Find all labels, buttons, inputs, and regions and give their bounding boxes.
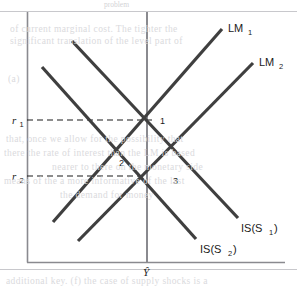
y-tick-label-r2: r	[12, 170, 17, 182]
is-s1-label: IS(S	[241, 222, 262, 234]
equilibrium-point-3-label: 3	[173, 176, 178, 186]
y-tick-label-r1: r	[12, 114, 17, 126]
equilibrium-point-1-label: 1	[160, 116, 165, 126]
is-s2-label-sub: 2	[228, 249, 232, 258]
lm1-label: LM	[228, 22, 243, 34]
x-axis-label: Ŷ	[143, 266, 151, 278]
is-lm-diagram: r 1 r 2 Ŷ LM 1 LM 2 IS(S 1 ) IS(S 2 ) 1 …	[0, 0, 297, 292]
lm1-curve	[53, 29, 222, 222]
is-s2-label-suffix: )	[233, 243, 237, 255]
lm1-label-sub: 1	[248, 28, 252, 37]
lm2-label: LM	[259, 56, 274, 68]
lm2-label-sub: 2	[279, 62, 283, 71]
is-s1-label-suffix: )	[274, 222, 278, 234]
figure-container: problem of current marginal cost. The ti…	[0, 0, 297, 292]
is-s1-label-sub: 1	[269, 228, 273, 237]
y-tick-sub-r2: 2	[20, 176, 24, 185]
lm2-curve	[78, 63, 253, 241]
equilibrium-point-2-label: 2	[119, 158, 124, 168]
y-tick-sub-r1: 1	[20, 120, 24, 129]
is-s2-label: IS(S	[200, 243, 221, 255]
